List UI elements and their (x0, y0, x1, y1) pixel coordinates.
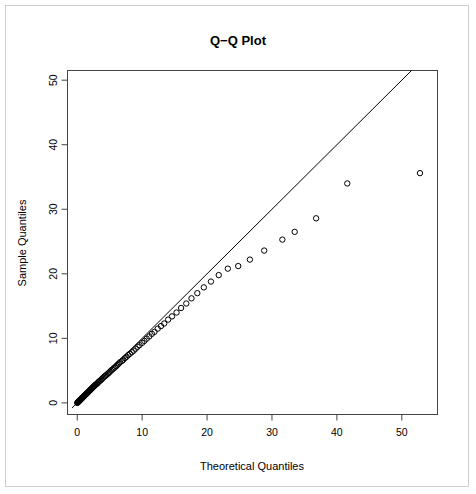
y-tick-label: 30 (47, 203, 59, 215)
data-point (345, 181, 350, 186)
qq-plot-figure: Q−Q Plot 01020304050 01020304050 Theoret… (0, 0, 476, 494)
data-point (280, 237, 285, 242)
data-point (292, 229, 297, 234)
data-point (184, 301, 189, 306)
data-point (178, 305, 183, 310)
data-point (201, 285, 206, 290)
y-tick-label: 20 (47, 268, 59, 280)
x-tick-label: 30 (266, 426, 278, 438)
data-point (236, 263, 241, 268)
data-point (247, 257, 252, 262)
y-tick-label: 50 (47, 74, 59, 86)
data-point (169, 314, 174, 319)
x-tick-label: 0 (74, 426, 80, 438)
y-tick-label: 0 (47, 400, 59, 406)
data-point (189, 296, 194, 301)
qq-plot-screenshot: Q−Q Plot 01020304050 01020304050 Theoret… (0, 0, 476, 494)
data-point (261, 248, 266, 253)
data-point (195, 290, 200, 295)
qq-data-points (75, 170, 423, 405)
x-axis-title: Theoretical Quantiles (200, 460, 304, 472)
y-axis-ticks: 01020304050 (47, 74, 67, 406)
x-tick-label: 20 (201, 426, 213, 438)
data-point (417, 170, 422, 175)
x-tick-label: 50 (396, 426, 408, 438)
chart-title: Q−Q Plot (210, 33, 267, 48)
y-axis-title: Sample Quantiles (16, 199, 28, 286)
x-tick-label: 10 (136, 426, 148, 438)
y-tick-label: 10 (47, 332, 59, 344)
x-tick-label: 40 (331, 426, 343, 438)
data-point (174, 310, 179, 315)
data-point (208, 279, 213, 284)
data-point (225, 266, 230, 271)
data-point (313, 216, 318, 221)
data-point (216, 272, 221, 277)
x-axis-ticks: 01020304050 (74, 415, 407, 438)
y-tick-label: 40 (47, 139, 59, 151)
